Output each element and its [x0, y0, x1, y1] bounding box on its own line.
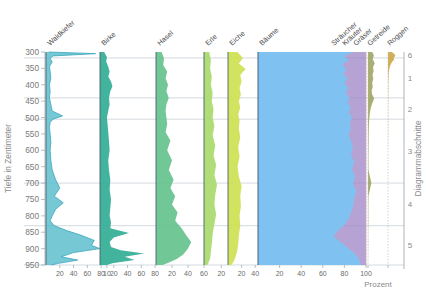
depth-tick-label: 800 — [25, 211, 39, 221]
curve-fill — [368, 52, 375, 265]
curve-roggen: Roggen — [385, 24, 410, 268]
x-tick-label: 40 — [297, 270, 305, 277]
x-tick-label: 60 — [83, 270, 91, 277]
x-tick-label: 80 — [341, 270, 349, 277]
sections-axis-title: Diagrammabschnitte — [413, 120, 423, 196]
x-tick-label: 100 — [360, 270, 372, 277]
section-number: 6 — [408, 51, 413, 60]
section-number: 1 — [408, 74, 413, 83]
curve-label: Birke — [99, 30, 117, 48]
x-tick-label: 40 — [184, 270, 192, 277]
x-tick-label: 40 — [70, 270, 78, 277]
x-tick-label: 60 — [200, 270, 208, 277]
curve-fill — [228, 52, 246, 265]
depth-tick-label: 850 — [25, 227, 39, 237]
depth-tick-label: 400 — [25, 80, 39, 90]
curve-label: Eiche — [227, 29, 246, 48]
x-tick-label: 20 — [276, 270, 284, 277]
curve-birke: 1020406080Birke — [99, 30, 159, 277]
section-number: 2 — [408, 105, 413, 114]
x-tick-label: 20 — [110, 270, 118, 277]
pollen-diagram-svg: 3003504004505005506006507007508008509009… — [0, 0, 426, 307]
curve-fill — [388, 52, 395, 265]
section-number: 5 — [408, 241, 413, 250]
depth-tick-label: 700 — [25, 178, 39, 188]
section-number: 4 — [408, 200, 413, 209]
depth-tick-label: 650 — [25, 162, 39, 172]
curve-label: Hasel — [155, 28, 175, 47]
depth-tick-label: 750 — [25, 194, 39, 204]
depth-tick-label: 550 — [25, 129, 39, 139]
depth-tick-label: 300 — [25, 47, 39, 57]
curve-baeume-stacked: 20406080100BäumeSträucherKräuterGräser — [257, 20, 374, 277]
curve-label: Erle — [203, 32, 219, 47]
depth-tick-label: 350 — [25, 63, 39, 73]
x-tick-label: 20 — [168, 270, 176, 277]
x-tick-label: 60 — [319, 270, 327, 277]
depth-tick-label: 600 — [25, 145, 39, 155]
curve-waldkiefer: 20406080Waldkiefer — [45, 18, 105, 277]
curve-eiche: 2040Eiche — [227, 29, 259, 277]
depth-tick-label: 950 — [25, 260, 39, 270]
x-tick-label: 40 — [124, 270, 132, 277]
depth-tick-label: 900 — [25, 244, 39, 254]
depth-tick-label: 500 — [25, 113, 39, 123]
curve-erle: 20Erle — [203, 32, 225, 277]
curve-fill — [156, 52, 191, 265]
depth-axis-title: Tiefe in Zentimeter — [3, 124, 13, 193]
x-tick-label: 20 — [56, 270, 64, 277]
pollen-diagram: 3003504004505005506006507007508008509009… — [0, 0, 426, 307]
x-tick-label: 40 — [251, 270, 259, 277]
depth-tick-label: 450 — [25, 96, 39, 106]
x-tick-label: 60 — [137, 270, 145, 277]
curve-fill — [204, 52, 217, 265]
curve-hasel: 204060Hasel — [155, 28, 208, 277]
curve-label: Bäume — [257, 26, 280, 48]
curve-fill — [46, 52, 100, 265]
x-tick-label: 20 — [217, 270, 225, 277]
percent-axis-label: Prozent — [364, 280, 392, 289]
x-tick-label: 80 — [151, 270, 159, 277]
curve-fill — [100, 52, 144, 265]
curve-label: Waldkiefer — [45, 18, 77, 48]
x-tick-label: 20 — [238, 270, 246, 277]
